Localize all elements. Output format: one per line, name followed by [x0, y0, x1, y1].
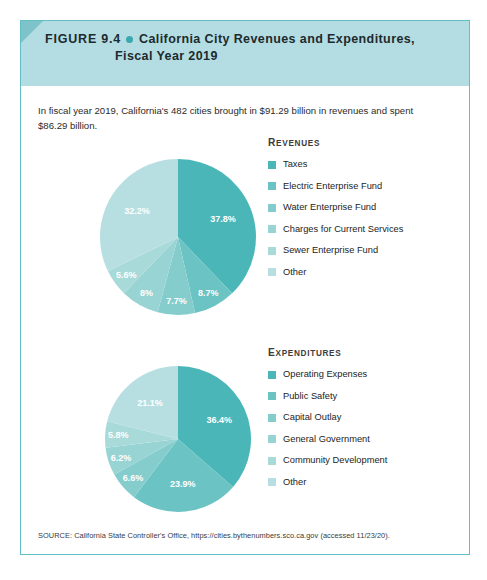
legend-item-label: Sewer Enterprise Fund	[283, 245, 378, 256]
figure-title-line2: Fiscal Year 2019	[115, 48, 459, 65]
legend-item[interactable]: General Government	[268, 434, 463, 445]
expenditures-legend-heading: EXPENDITURES	[268, 347, 463, 358]
legend-item[interactable]: Electric Enterprise Fund	[268, 181, 463, 192]
expenditures-chart-block: 36.4%23.9%6.6%6.2%5.8%21.1% EXPENDITURES…	[21, 347, 469, 547]
legend-item-label: Community Development	[283, 455, 387, 466]
source-note: SOURCE: California State Controller's Of…	[38, 531, 455, 540]
legend-swatch-icon	[268, 182, 276, 190]
pie-slice-label: 21.1%	[137, 398, 163, 408]
bullet-dot-icon	[126, 36, 133, 43]
pie-slice-label: 23.9%	[170, 479, 196, 489]
revenues-legend-heading: REVENUES	[268, 137, 463, 148]
page-title: FIGURE 9.4California City Revenues and E…	[45, 31, 459, 65]
expenditures-pie-wrap: 36.4%23.9%6.6%6.2%5.8%21.1%	[73, 347, 283, 536]
pie-slice-label: 37.8%	[210, 214, 236, 224]
legend-item-label: Water Enterprise Fund	[283, 202, 376, 213]
legend-item-label: Other	[283, 477, 306, 488]
legend-item-label: Taxes	[283, 159, 307, 170]
legend-item[interactable]: Other	[268, 267, 463, 278]
legend-item[interactable]: Charges for Current Services	[268, 224, 463, 235]
revenues-pie-chart: 37.8%8.7%7.7%8%5.6%32.2%	[73, 137, 283, 332]
figure-number: FIGURE 9.4	[45, 32, 121, 46]
pie-slice-label: 6.2%	[111, 453, 132, 463]
legend-swatch-icon	[268, 435, 276, 443]
legend-item[interactable]: Sewer Enterprise Fund	[268, 245, 463, 256]
figure-title-line1: California City Revenues and Expenditure…	[139, 32, 415, 46]
legend-swatch-icon	[268, 225, 276, 233]
pie-slice-label: 8.7%	[198, 288, 219, 298]
legend-item-label: Operating Expenses	[283, 369, 367, 380]
legend-item-label: Other	[283, 267, 306, 278]
legend-item[interactable]: Operating Expenses	[268, 369, 463, 380]
pie-slice-label: 5.8%	[108, 430, 129, 440]
legend-swatch-icon	[268, 268, 276, 276]
legend-swatch-icon	[268, 414, 276, 422]
expenditures-legend: EXPENDITURES Operating ExpensesPublic Sa…	[268, 347, 463, 498]
legend-item-label: Charges for Current Services	[283, 224, 403, 235]
legend-swatch-icon	[268, 478, 276, 486]
intro-paragraph: In fiscal year 2019, California's 482 ci…	[38, 103, 441, 133]
pie-slice-label: 7.7%	[166, 296, 187, 306]
legend-swatch-icon	[268, 371, 276, 379]
legend-item[interactable]: Other	[268, 477, 463, 488]
pie-slice-label: 32.2%	[124, 206, 150, 216]
pie-slice-label: 6.6%	[123, 473, 144, 483]
revenues-chart-block: 37.8%8.7%7.7%8%5.6%32.2% REVENUES TaxesE…	[21, 137, 469, 337]
legend-swatch-icon	[268, 247, 276, 255]
legend-swatch-icon	[268, 392, 276, 400]
revenues-pie-wrap: 37.8%8.7%7.7%8%5.6%32.2%	[73, 137, 283, 336]
legend-item-label: Electric Enterprise Fund	[283, 181, 382, 192]
expenditures-pie-chart: 36.4%23.9%6.6%6.2%5.8%21.1%	[73, 347, 283, 532]
legend-item-label: General Government	[283, 434, 370, 445]
legend-item[interactable]: Capital Outlay	[268, 412, 463, 423]
legend-item[interactable]: Water Enterprise Fund	[268, 202, 463, 213]
pie-slice-label: 36.4%	[206, 415, 232, 425]
corner-notch-decoration	[21, 21, 43, 43]
pie-slice-label: 8%	[140, 288, 153, 298]
figure-header-band: FIGURE 9.4California City Revenues and E…	[21, 21, 469, 86]
legend-item-label: Public Safety	[283, 391, 337, 402]
legend-swatch-icon	[268, 457, 276, 465]
revenues-legend: REVENUES TaxesElectric Enterprise FundWa…	[268, 137, 463, 288]
legend-swatch-icon	[268, 161, 276, 169]
legend-item[interactable]: Taxes	[268, 159, 463, 170]
legend-item-label: Capital Outlay	[283, 412, 341, 423]
pie-slice-label: 5.6%	[116, 270, 137, 280]
legend-swatch-icon	[268, 204, 276, 212]
figure-container: FIGURE 9.4California City Revenues and E…	[20, 20, 470, 555]
legend-item[interactable]: Public Safety	[268, 391, 463, 402]
legend-item[interactable]: Community Development	[268, 455, 463, 466]
